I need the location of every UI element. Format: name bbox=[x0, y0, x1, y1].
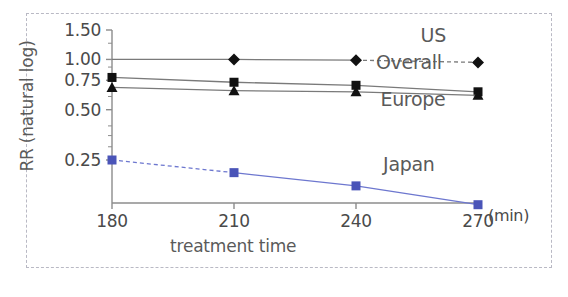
y-tick-label: 1.50 bbox=[64, 20, 101, 40]
data-point-marker bbox=[472, 56, 484, 68]
x-tick-label: 210 bbox=[218, 211, 250, 231]
y-tick-label: 1.00 bbox=[64, 49, 101, 69]
data-point-marker bbox=[352, 181, 361, 190]
x-tick-label: 240 bbox=[340, 211, 372, 231]
data-point-marker bbox=[230, 168, 239, 177]
figure-container: RR (natural log) treatment time (min) 1.… bbox=[0, 0, 568, 297]
data-point-marker bbox=[228, 53, 240, 65]
series-line-segment bbox=[234, 59, 356, 60]
x-tick-label: 270 bbox=[462, 211, 494, 231]
series-label-us: US bbox=[421, 24, 446, 46]
series-line-segment bbox=[356, 186, 478, 205]
series-line-segment bbox=[112, 160, 234, 173]
series-label-japan: Japan bbox=[382, 153, 435, 175]
data-point-marker bbox=[108, 156, 117, 165]
series-line-segment bbox=[234, 173, 356, 186]
series-label-overall: Overall bbox=[376, 51, 442, 73]
data-point-marker bbox=[108, 73, 117, 82]
series-line-segment bbox=[112, 87, 234, 90]
y-tick-label: 0.25 bbox=[64, 150, 101, 170]
series-line-segment bbox=[112, 77, 234, 82]
data-point-marker bbox=[474, 200, 483, 209]
x-tick-label: 180 bbox=[96, 211, 128, 231]
series-line-segment bbox=[234, 82, 356, 85]
y-tick-label: 0.75 bbox=[64, 70, 101, 90]
series-line-segment bbox=[234, 91, 356, 92]
y-tick-label: 0.50 bbox=[64, 100, 101, 120]
chart-plot-area: 1.501.000.750.500.25180210240270USOveral… bbox=[0, 0, 568, 297]
series-label-europe: Europe bbox=[380, 88, 445, 110]
data-point-marker bbox=[350, 54, 362, 66]
